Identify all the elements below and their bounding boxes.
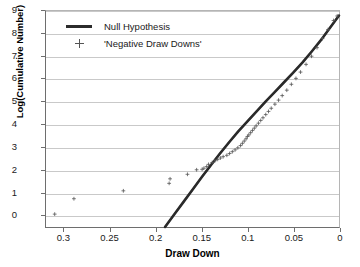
data-point-marker <box>294 77 298 81</box>
y-tick-label: 7 <box>0 51 17 61</box>
y-tick-label: 0 <box>0 210 17 220</box>
data-point-marker <box>228 152 232 156</box>
data-point-marker <box>289 82 293 86</box>
data-point-marker <box>249 131 253 135</box>
x-tick-mark <box>294 228 295 232</box>
data-point-marker <box>225 153 229 157</box>
data-point-marker <box>242 139 246 143</box>
data-point-marker <box>186 172 190 176</box>
data-point-marker <box>53 212 57 216</box>
data-point-marker <box>230 150 234 154</box>
data-point-marker <box>233 148 237 152</box>
x-tick-mark <box>248 228 249 232</box>
data-point-marker <box>168 177 172 181</box>
chart-container: Log(Cumulative Number) 0123456789 0.30.2… <box>0 0 360 267</box>
legend-item-negative-draw-downs: 'Negative Draw Downs' <box>62 35 202 52</box>
data-point-marker <box>267 110 271 114</box>
y-tick-label: 8 <box>0 28 17 38</box>
data-point-marker <box>257 121 261 125</box>
plus-swatch-icon <box>62 39 96 48</box>
x-tick-label: 0.05 <box>274 233 314 243</box>
x-tick-label: 0.1 <box>228 233 268 243</box>
x-tick-label: 0.25 <box>90 233 130 243</box>
y-axis-label: Log(Cumulative Number) <box>14 0 25 137</box>
x-tick-mark <box>340 228 341 232</box>
y-tick-label: 9 <box>0 5 17 15</box>
y-tick-label: 2 <box>0 165 17 175</box>
legend-item-null-hypothesis: Null Hypothesis <box>62 18 202 35</box>
data-point-marker <box>195 168 199 172</box>
x-tick-mark <box>63 228 64 232</box>
data-point-marker <box>280 94 284 98</box>
legend-item-label: 'Negative Draw Downs' <box>104 38 202 49</box>
y-tick-label: 3 <box>0 142 17 152</box>
y-tick-label: 1 <box>0 188 17 198</box>
x-tick-label: 0.3 <box>43 233 83 243</box>
data-point-marker <box>251 129 255 133</box>
x-tick-label: 0 <box>320 233 360 243</box>
data-point-marker <box>273 102 277 106</box>
data-point-marker <box>277 98 281 102</box>
data-point-marker <box>121 189 125 193</box>
x-tick-mark <box>202 228 203 232</box>
data-point-marker <box>72 197 76 201</box>
data-point-marker <box>304 62 308 66</box>
x-tick-label: 0.2 <box>136 233 176 243</box>
data-point-marker <box>259 119 263 123</box>
data-point-marker <box>261 116 265 120</box>
data-point-marker <box>236 146 240 150</box>
chart-legend: Null Hypothesis 'Negative Draw Downs' <box>62 18 202 52</box>
data-point-marker <box>241 141 245 145</box>
data-point-marker <box>269 106 273 110</box>
data-point-marker <box>239 144 243 148</box>
x-tick-mark <box>156 228 157 232</box>
data-point-marker <box>167 181 171 185</box>
x-tick-label: 0.15 <box>182 233 222 243</box>
x-tick-mark <box>110 228 111 232</box>
data-point-marker <box>264 113 268 117</box>
x-axis-label: Draw Down <box>45 248 340 259</box>
data-point-marker <box>252 126 256 130</box>
data-point-marker <box>299 70 303 74</box>
y-tick-label: 6 <box>0 73 17 83</box>
y-tick-label: 5 <box>0 96 17 106</box>
line-swatch-icon <box>62 25 96 28</box>
data-point-marker <box>285 88 289 92</box>
data-point-marker <box>254 124 258 128</box>
legend-item-label: Null Hypothesis <box>104 21 170 32</box>
y-tick-label: 4 <box>0 119 17 129</box>
